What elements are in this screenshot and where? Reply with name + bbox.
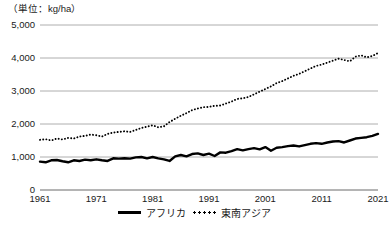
legend-entry: アフリカ — [118, 205, 186, 220]
x-axis-tick-label: 1971 — [86, 193, 107, 204]
y-axis-tick-labels: 01,0002,0003,0004,0005,000 — [11, 19, 35, 195]
series-line-africa — [40, 134, 378, 162]
y-axis-tick-label: 4,000 — [11, 52, 35, 63]
y-axis-tick-label: 3,000 — [11, 85, 35, 96]
chart-legend: アフリカ東南アジア — [0, 205, 389, 220]
dotted-line-swatch — [193, 211, 216, 214]
gridlines — [40, 25, 378, 190]
legend-label: 東南アジア — [221, 205, 271, 220]
y-axis-tick-label: 2,000 — [11, 118, 35, 129]
x-axis-tick-label: 1981 — [142, 193, 163, 204]
x-axis-tick-label: 2011 — [311, 193, 331, 204]
x-axis-tick-labels: 1961197119811991200120112021 — [29, 193, 388, 204]
x-axis-tick-label: 1961 — [29, 193, 50, 204]
chart-plot-svg: 01,0002,0003,0004,0005,000 1961197119811… — [0, 0, 389, 225]
data-series — [40, 53, 378, 162]
x-axis-tick-label: 2001 — [255, 193, 276, 204]
y-axis-tick-label: 5,000 — [11, 19, 35, 30]
legend-entry: 東南アジア — [193, 205, 271, 220]
x-axis-tick-label: 1991 — [198, 193, 219, 204]
series-line-southeast-asia — [40, 53, 378, 140]
legend-label: アフリカ — [146, 205, 186, 220]
chart-container: （単位：kg/ha） 01,0002,0003,0004,0005,000 19… — [0, 0, 389, 225]
y-axis-tick-label: 1,000 — [11, 151, 35, 162]
x-axis-tick-label: 2021 — [367, 193, 388, 204]
solid-line-swatch — [118, 211, 141, 214]
